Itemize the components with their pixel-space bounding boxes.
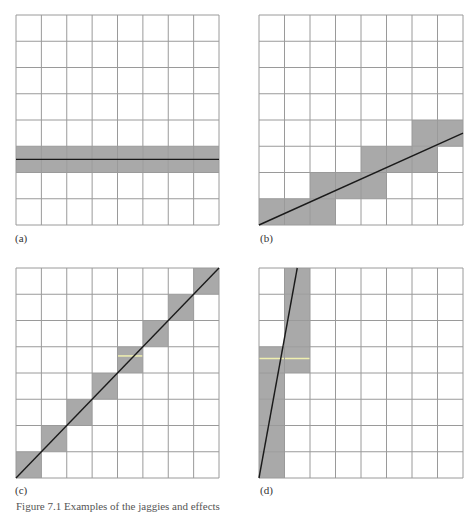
shaded-pixel — [310, 173, 336, 199]
panel-d — [259, 268, 463, 478]
figure-caption: Figure 7.1 Examples of the jaggies and e… — [16, 500, 220, 512]
shaded-pixel — [259, 426, 285, 452]
shaded-pixel — [361, 173, 387, 199]
panel-label-a: (a) — [15, 232, 27, 244]
shaded-pixel — [412, 120, 438, 146]
shaded-pixel — [285, 321, 311, 347]
shaded-pixel — [387, 146, 413, 172]
panel-a — [16, 15, 219, 225]
panel-label-c: (c) — [15, 484, 27, 496]
shaded-pixel — [259, 373, 285, 399]
panel-c — [16, 268, 219, 478]
shaded-pixel — [336, 173, 362, 199]
panel-b — [259, 15, 463, 225]
shaded-pixel — [259, 199, 285, 225]
panel-label-b: (b) — [260, 232, 273, 244]
shaded-pixel — [259, 399, 285, 425]
shaded-pixel — [285, 347, 311, 373]
panel-label-d: (d) — [260, 484, 273, 496]
shaded-pixel — [310, 199, 336, 225]
shaded-pixel — [285, 268, 311, 294]
